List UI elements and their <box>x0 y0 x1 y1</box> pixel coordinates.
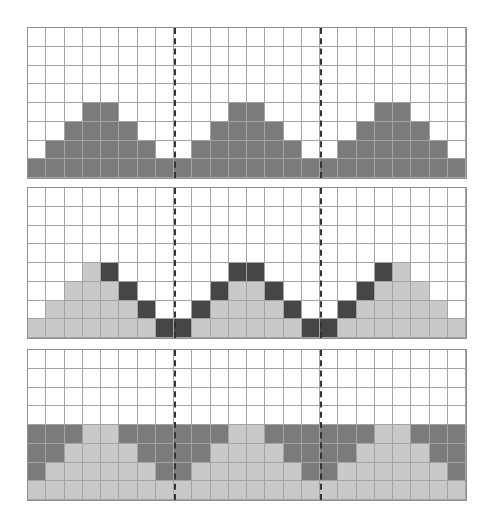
grid-cell <box>357 425 375 444</box>
grid-cell <box>247 282 265 301</box>
grid-cell <box>156 263 174 282</box>
grid-cell <box>46 369 64 388</box>
grid-cell <box>83 388 101 407</box>
grid-cell <box>357 444 375 463</box>
grid-cell <box>46 207 64 226</box>
grid-cell <box>119 226 137 245</box>
grid-cell <box>119 319 137 338</box>
grid-cell <box>302 66 320 85</box>
grid-cell <box>448 207 466 226</box>
grid-cell <box>430 444 448 463</box>
grid-cell <box>174 444 192 463</box>
grid-cell <box>119 207 137 226</box>
grid-cell <box>211 350 229 369</box>
grid-cell <box>393 282 411 301</box>
grid-cell <box>192 47 210 66</box>
grid-cell <box>229 282 247 301</box>
grid-cell <box>357 47 375 66</box>
grid-cell <box>448 444 466 463</box>
grid-cell <box>284 244 302 263</box>
grid-cell <box>138 66 156 85</box>
grid-cell <box>83 28 101 47</box>
grid-cell <box>302 406 320 425</box>
grid-cell <box>430 463 448 482</box>
grid-cell <box>430 28 448 47</box>
grid-cell <box>338 282 356 301</box>
grid-cell <box>83 263 101 282</box>
grid-cell <box>119 141 137 160</box>
grid-cell <box>411 226 429 245</box>
grid-cell <box>83 282 101 301</box>
grid-cell <box>284 319 302 338</box>
grid-cell <box>211 263 229 282</box>
grid-cell <box>302 226 320 245</box>
grid-cell <box>119 159 137 178</box>
grid-cell <box>174 263 192 282</box>
grid-cell <box>211 141 229 160</box>
grid-cell <box>375 263 393 282</box>
grid-cell <box>393 369 411 388</box>
grid-cell <box>46 188 64 207</box>
grid-cell <box>229 463 247 482</box>
grid-cell <box>83 444 101 463</box>
grid-cell <box>65 282 83 301</box>
grid-cell <box>101 226 119 245</box>
grid-cell <box>284 481 302 500</box>
grid-cell <box>211 301 229 320</box>
grid-cell <box>156 481 174 500</box>
grid-cell <box>265 141 283 160</box>
grid-cell <box>101 122 119 141</box>
grid-cell <box>375 66 393 85</box>
grid-cell <box>284 425 302 444</box>
grid-cell <box>229 388 247 407</box>
grid-cell <box>265 103 283 122</box>
grid-cell <box>46 319 64 338</box>
grid-cell <box>28 406 46 425</box>
grid-cell <box>83 207 101 226</box>
grid-cell <box>156 188 174 207</box>
grid-cell <box>320 28 338 47</box>
grid-cell <box>338 159 356 178</box>
grid-cell <box>320 226 338 245</box>
dashed-divider <box>174 188 176 338</box>
grid-cell <box>430 301 448 320</box>
grid-cell <box>338 481 356 500</box>
grid-cell <box>265 226 283 245</box>
grid-cell <box>138 463 156 482</box>
grid-cell <box>83 66 101 85</box>
grid-cell <box>101 481 119 500</box>
grid-cell <box>229 159 247 178</box>
grid-cell <box>138 425 156 444</box>
grid-cell <box>101 388 119 407</box>
grid-cell <box>265 388 283 407</box>
grid-cell <box>46 406 64 425</box>
grid-cell <box>448 263 466 282</box>
grid-cell <box>174 122 192 141</box>
grid-cell <box>174 84 192 103</box>
grid-cell <box>83 369 101 388</box>
grid-cell <box>229 28 247 47</box>
grid-cell <box>338 350 356 369</box>
grid-cell <box>411 406 429 425</box>
grid-cell <box>320 188 338 207</box>
grid-cell <box>320 66 338 85</box>
grid-cell <box>65 66 83 85</box>
grid-cell <box>448 350 466 369</box>
grid-cell <box>393 463 411 482</box>
grid-cell <box>302 159 320 178</box>
grid-cell <box>302 188 320 207</box>
grid-cell <box>65 444 83 463</box>
grid-cell <box>229 481 247 500</box>
grid-cell <box>411 207 429 226</box>
grid-cell <box>375 141 393 160</box>
grid-cell <box>119 28 137 47</box>
grid-cell <box>65 103 83 122</box>
grid-cell <box>229 188 247 207</box>
grid-cell <box>430 319 448 338</box>
grid-cell <box>65 188 83 207</box>
grid-cell <box>247 226 265 245</box>
grid-cell <box>284 282 302 301</box>
grid-cell <box>338 226 356 245</box>
grid-cell <box>375 188 393 207</box>
grid-cell <box>46 244 64 263</box>
